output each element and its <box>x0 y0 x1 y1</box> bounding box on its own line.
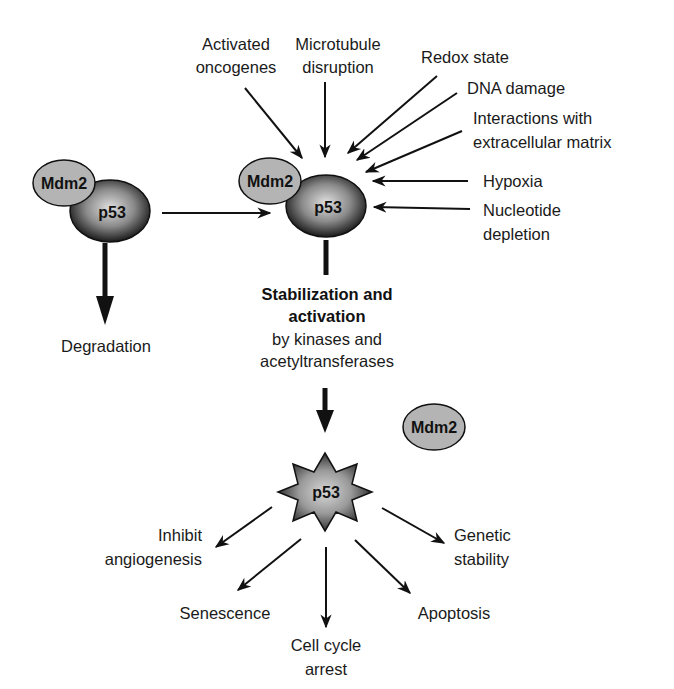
svg-text:arrest: arrest <box>305 660 348 678</box>
svg-text:Microtubule: Microtubule <box>295 35 380 53</box>
activation-arrowhead-icon <box>316 410 334 433</box>
svg-text:oncogenes: oncogenes <box>196 58 277 76</box>
svg-text:Interactions with: Interactions with <box>473 109 592 127</box>
genetic-stability-arrow <box>382 508 444 543</box>
free-mdm2: Mdm2 <box>403 404 465 450</box>
stabilization-text: Stabilization and activation by kinases … <box>260 285 394 370</box>
ecm-arrow <box>366 131 462 172</box>
svg-text:Genetic: Genetic <box>454 526 511 544</box>
svg-text:Hypoxia: Hypoxia <box>483 172 543 190</box>
svg-text:Activated: Activated <box>202 35 270 53</box>
center-mdm2-label: Mdm2 <box>247 173 293 190</box>
nucleotide-arrow <box>374 207 470 209</box>
svg-text:Senescence: Senescence <box>180 604 271 622</box>
stimulus-activated-oncogenes: Activated oncogenes <box>196 35 277 76</box>
svg-text:Cell cycle: Cell cycle <box>291 636 362 654</box>
svg-text:activation: activation <box>288 307 365 325</box>
outcome-senescence: Senescence <box>180 604 271 622</box>
active-p53-star: p53 <box>278 453 372 531</box>
svg-text:Stabilization and: Stabilization and <box>261 285 392 303</box>
stimulus-dna-damage: DNA damage <box>467 79 565 97</box>
center-mdm2-p53-complex: Mdm2 p53 <box>239 158 366 237</box>
svg-text:stability: stability <box>454 550 510 568</box>
free-mdm2-label: Mdm2 <box>411 419 457 436</box>
p53-pathway-diagram: Mdm2 p53 Degradation Mdm2 p53 Activated … <box>0 0 674 689</box>
degradation-arrowhead-icon <box>96 296 114 325</box>
outcome-inhibit-angiogenesis: Inhibit angiogenesis <box>105 526 203 568</box>
stimulus-hypoxia: Hypoxia <box>483 172 543 190</box>
svg-text:Redox state: Redox state <box>421 48 509 66</box>
angiogenesis-arrow <box>216 507 272 547</box>
left-mdm2-p53-complex: Mdm2 p53 <box>33 160 150 242</box>
degradation-label: Degradation <box>61 337 151 355</box>
apoptosis-arrow <box>355 540 410 593</box>
outcome-genetic-stability: Genetic stability <box>454 526 511 568</box>
svg-text:Nucleotide: Nucleotide <box>483 201 561 219</box>
stimulus-extracellular-matrix: Interactions with extracellular matrix <box>473 109 612 151</box>
oncogenes-arrow <box>245 88 302 158</box>
outcome-apoptosis: Apoptosis <box>418 604 490 622</box>
svg-text:extracellular matrix: extracellular matrix <box>473 133 612 151</box>
svg-text:depletion: depletion <box>483 225 550 243</box>
svg-text:acetyltransferases: acetyltransferases <box>260 352 394 370</box>
outcome-cell-cycle-arrest: Cell cycle arrest <box>291 636 362 678</box>
senescence-arrow <box>238 539 301 590</box>
stimulus-microtubule-disruption: Microtubule disruption <box>295 35 380 76</box>
svg-text:Inhibit: Inhibit <box>158 526 202 544</box>
svg-text:disruption: disruption <box>302 58 374 76</box>
svg-text:Apoptosis: Apoptosis <box>418 604 490 622</box>
center-p53-label: p53 <box>314 199 342 216</box>
stimulus-redox-state: Redox state <box>421 48 509 66</box>
svg-text:DNA damage: DNA damage <box>467 79 565 97</box>
svg-text:by kinases and: by kinases and <box>272 330 382 348</box>
left-p53-label: p53 <box>98 204 126 221</box>
active-p53-label: p53 <box>312 484 340 501</box>
svg-text:angiogenesis: angiogenesis <box>105 550 202 568</box>
left-mdm2-label: Mdm2 <box>41 175 87 192</box>
stimulus-nucleotide-depletion: Nucleotide depletion <box>483 201 561 243</box>
